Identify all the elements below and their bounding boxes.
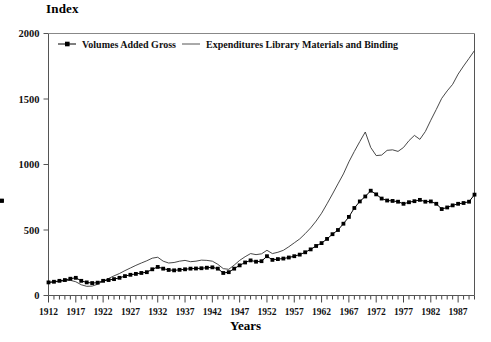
svg-text:1977: 1977 [394,307,413,317]
svg-text:1932: 1932 [148,307,167,317]
chart-legend: Volumes Added GrossExpenditures Library … [58,39,398,50]
svg-text:0: 0 [34,290,39,301]
svg-text:1982: 1982 [421,307,440,317]
svg-text:1000: 1000 [19,159,40,170]
legend-label-volumes: Volumes Added Gross [82,39,176,50]
svg-text:1987: 1987 [449,307,468,317]
svg-text:1947: 1947 [230,307,249,317]
svg-text:1972: 1972 [367,307,386,317]
svg-text:500: 500 [24,225,40,236]
chart-figure: Index 0500100015002000 19121917192219271… [0,0,491,342]
x-axis-ticks: 1912191719221927193219371942194719521957… [39,296,475,317]
data-series-layer [0,51,476,287]
svg-text:1500: 1500 [19,94,40,105]
x-axis-title: Years [0,318,491,334]
svg-text:1952: 1952 [257,307,276,317]
svg-text:1957: 1957 [285,307,304,317]
chart-plot-area: 0500100015002000 19121917192219271932193… [0,0,491,342]
plot-frame [49,34,475,296]
svg-text:1942: 1942 [203,307,222,317]
svg-text:1937: 1937 [176,307,195,317]
legend-label-expenditures: Expenditures Library Materials and Bindi… [206,39,398,50]
svg-text:1927: 1927 [121,307,140,317]
svg-text:1967: 1967 [339,307,358,317]
svg-text:1922: 1922 [94,307,113,317]
svg-text:2000: 2000 [19,28,40,39]
svg-text:1962: 1962 [312,307,331,317]
y-axis-ticks: 0500100015002000 [19,28,49,301]
svg-text:1912: 1912 [39,307,58,317]
svg-text:1917: 1917 [66,307,85,317]
